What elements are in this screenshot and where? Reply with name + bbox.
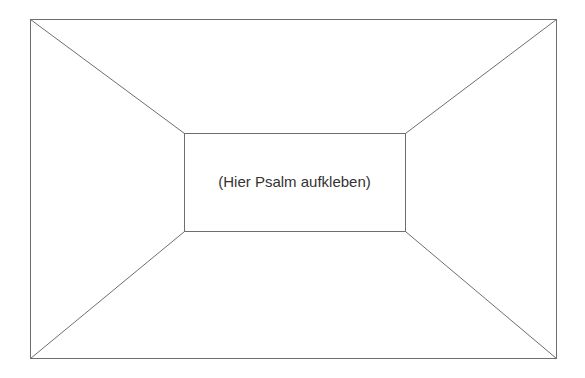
diagonal-bottom-left — [31, 232, 185, 359]
diagonal-top-right — [406, 20, 557, 134]
psalm-placeholder-text: (Hier Psalm aufkleben) — [184, 133, 405, 231]
diagonal-bottom-right — [406, 232, 557, 359]
diagonal-top-left — [31, 20, 185, 134]
